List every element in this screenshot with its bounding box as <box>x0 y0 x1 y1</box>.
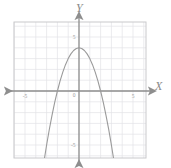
coordinate-plane: -555-50 <box>0 0 171 168</box>
x-tick-label-5: 5 <box>132 93 135 99</box>
x-tick-label--5: -5 <box>23 93 28 99</box>
graph-figure: -555-50 Y X <box>0 0 171 168</box>
y-axis-label: Y <box>76 2 83 14</box>
plot-background <box>14 22 146 158</box>
y-tick-label-5: 5 <box>73 34 76 40</box>
x-axis-label: X <box>155 80 162 92</box>
origin-label: 0 <box>73 92 76 98</box>
y-tick-label--5: -5 <box>71 142 76 148</box>
